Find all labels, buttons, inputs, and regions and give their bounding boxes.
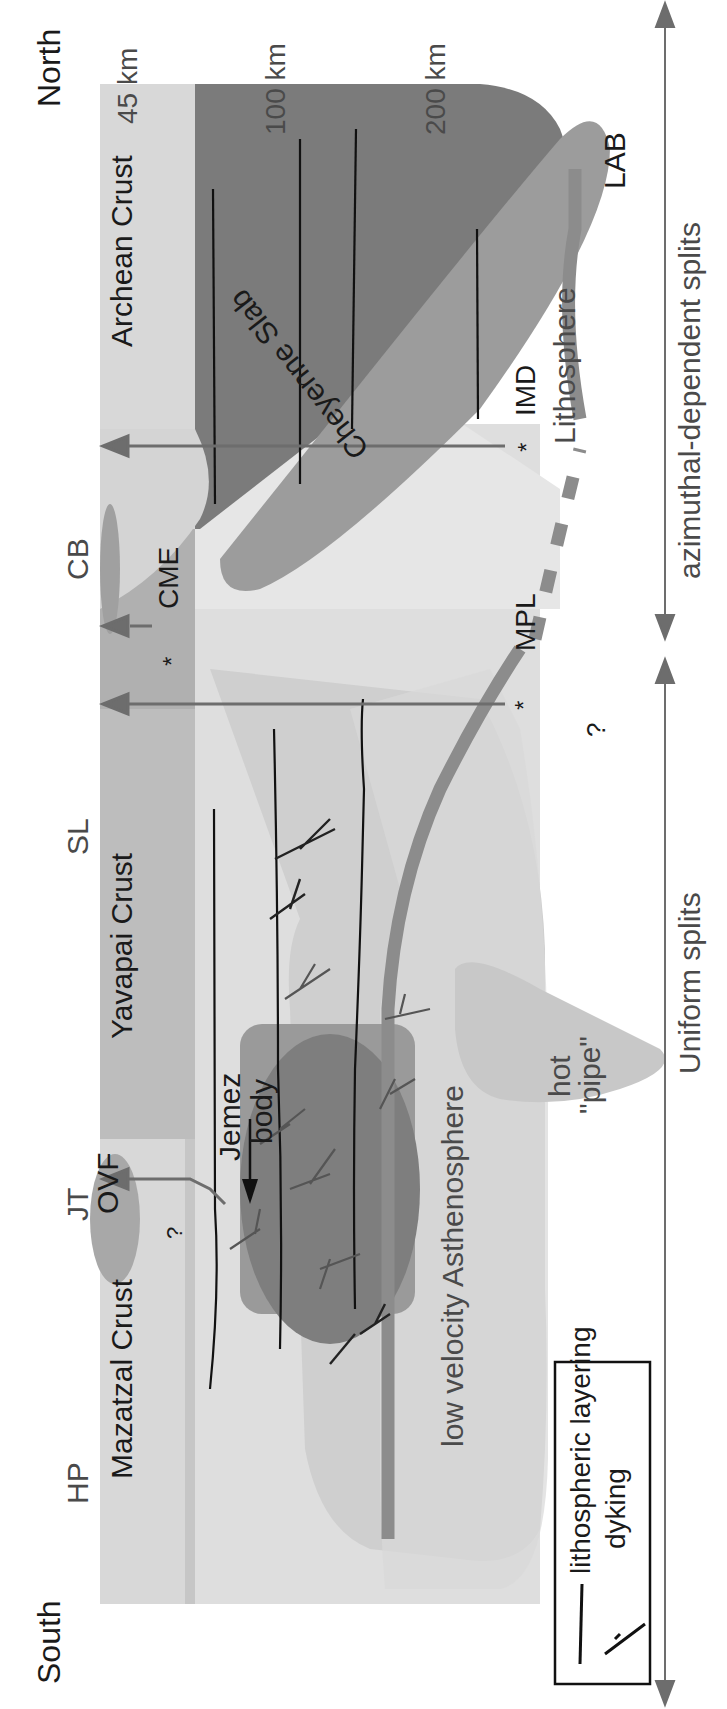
source-mpl-label: MPL (510, 593, 541, 651)
label-ovf: OVF (91, 1152, 124, 1214)
source-cme-marker: * (158, 657, 185, 666)
legend-layering-icon (580, 1584, 582, 1664)
label-north: North (31, 29, 67, 107)
depth-label-200: 200 km (420, 43, 451, 135)
label-pipe: "pipe" (573, 1036, 606, 1114)
legend-label-layering: lithospheric layering (565, 1327, 596, 1574)
station-hp: HP (61, 1462, 94, 1504)
source-imd-label: IMD (510, 365, 541, 416)
label-archean-crust: Archean Crust (105, 155, 138, 347)
label-question-ovf: ? (162, 1227, 187, 1239)
label-hot: hot (543, 1055, 576, 1097)
label-azimuthal-splits: azimuthal-dependent splits (673, 222, 706, 579)
label-lithosphere: Lithosphere (548, 287, 581, 444)
splits-arrows (656, 3, 674, 1705)
depth-label-100: 100 km (260, 43, 291, 135)
label-south: South (31, 1600, 67, 1684)
source-imd-marker: * (513, 443, 540, 452)
station-jt: JT (61, 1188, 94, 1221)
label-asthenosphere: low velocity Asthenosphere (436, 1085, 469, 1447)
label-body: body (245, 1079, 278, 1144)
legend: lithospheric layering dyking (555, 1327, 650, 1684)
station-cb: CB (61, 538, 94, 580)
cb-bump (100, 504, 120, 634)
source-mpl-marker: * (510, 701, 537, 710)
label-jemez: Jemez (213, 1073, 246, 1161)
depth-label-45: 45 km (112, 48, 143, 124)
label-lab: LAB (598, 132, 631, 189)
label-mazatzal-crust: Mazatzal Crust (105, 1278, 138, 1479)
label-question-lab: ? (581, 723, 611, 737)
station-sl: SL (61, 818, 94, 855)
source-cme-label: CME (153, 547, 184, 609)
label-yavapai-crust: Yavapai Crust (105, 852, 138, 1039)
legend-label-dyking: dyking (600, 1468, 631, 1549)
cross-section-diagram: lithospheric layering dyking South North… (0, 0, 727, 1709)
label-uniform-splits: Uniform splits (673, 892, 706, 1074)
